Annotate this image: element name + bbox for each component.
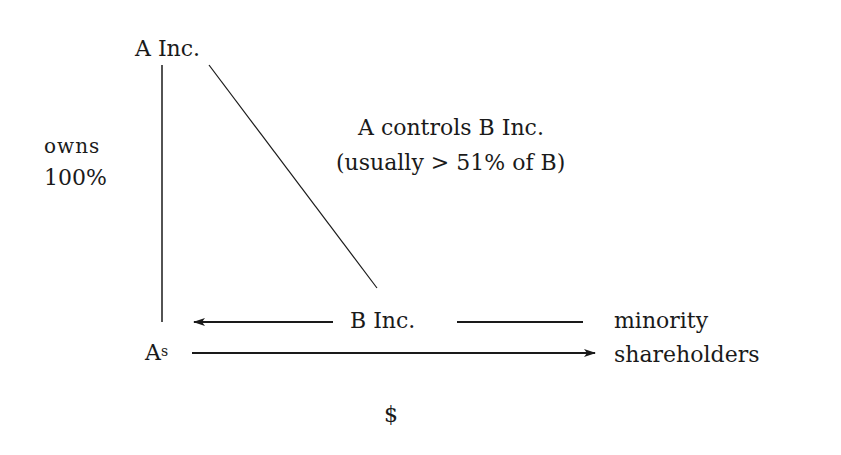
node-minority-line1: minority	[614, 308, 708, 334]
node-b-inc: B Inc.	[350, 308, 415, 334]
label-100-percent: 100%	[44, 165, 107, 191]
label-owns: owns	[44, 133, 100, 159]
a-shareholders-base: A	[145, 340, 161, 365]
label-controls-line2: (usually > 51% of B)	[336, 150, 565, 176]
controls-edge-line	[209, 65, 377, 288]
a-shareholders-sup: s	[161, 343, 168, 359]
label-dollar: $	[384, 402, 398, 428]
node-a-inc: A Inc.	[135, 36, 200, 62]
diagram-edges	[0, 0, 841, 455]
label-controls-line1: A controls B Inc.	[358, 115, 544, 141]
node-minority-line2: shareholders	[614, 342, 759, 368]
node-a-shareholders: As	[145, 340, 168, 366]
